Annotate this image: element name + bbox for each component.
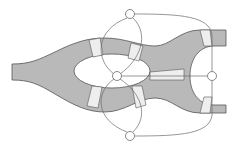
node-south-bank [126,132,135,141]
bridge-7 [200,97,212,113]
river [12,30,226,113]
node-north-bank [126,10,135,19]
node-east-bank [208,72,217,81]
konigsberg-bridges-diagram [0,0,239,152]
node-island [113,72,122,81]
